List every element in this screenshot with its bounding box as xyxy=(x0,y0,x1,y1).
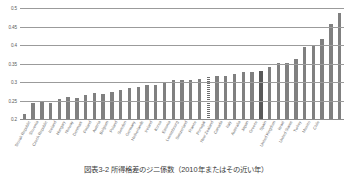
y-tick-label-0.35: 0.35 xyxy=(8,61,17,66)
bar xyxy=(242,72,245,120)
bar xyxy=(285,63,288,120)
y-tick-label-0.5: 0.5 xyxy=(11,6,17,11)
bar xyxy=(312,46,315,120)
x-tick-label: Italy xyxy=(225,120,233,129)
bar xyxy=(128,88,131,120)
bar xyxy=(58,99,61,120)
y-axis-tick-labels: 0.20.250.30.350.40.450.5 xyxy=(0,8,17,120)
gridline-0.25 xyxy=(20,101,344,102)
chart-caption: 図表3-2 所得格差のジニ係数（2010年またはその近い年） xyxy=(0,163,352,174)
bar xyxy=(49,103,52,120)
x-axis-category-labels: Slovak RepublicSloveniaCzech RepublicIce… xyxy=(20,120,344,164)
gridline-0.45 xyxy=(20,27,344,28)
y-tick-label-0.25: 0.25 xyxy=(8,98,17,103)
bar xyxy=(277,63,280,120)
bar xyxy=(110,92,113,120)
bar xyxy=(233,74,236,120)
bar xyxy=(119,90,122,120)
plot-area xyxy=(20,8,344,120)
y-tick-label-0.3: 0.3 xyxy=(11,80,17,85)
x-tick-label: Chile xyxy=(311,120,320,130)
x-tick-label: Greece xyxy=(248,120,259,134)
y-tick-label-0.2: 0.2 xyxy=(11,117,17,122)
y-tick-label-0.4: 0.4 xyxy=(11,43,17,48)
gini-coefficient-bar-chart: 0.20.250.30.350.40.450.5 Slovak Republic… xyxy=(0,0,352,175)
bar xyxy=(320,39,323,120)
bar xyxy=(93,93,96,120)
bar xyxy=(250,72,253,120)
bar xyxy=(40,102,43,120)
bar xyxy=(329,24,332,120)
bar xyxy=(101,94,104,120)
gridline-0.5 xyxy=(20,8,344,9)
bar xyxy=(31,103,34,120)
gridline-0.4 xyxy=(20,45,344,46)
gridline-0.3 xyxy=(20,82,344,83)
bar xyxy=(338,13,341,120)
bar xyxy=(154,85,157,120)
bar xyxy=(294,59,297,120)
bar xyxy=(303,47,306,120)
bar xyxy=(198,79,201,120)
bar xyxy=(259,71,262,120)
x-tick-label: Ireland xyxy=(143,120,153,133)
bar xyxy=(137,87,140,120)
gridline-0.35 xyxy=(20,64,344,65)
bar xyxy=(84,95,87,120)
y-tick-label-0.45: 0.45 xyxy=(8,24,17,29)
bar xyxy=(268,67,271,120)
bar xyxy=(207,77,210,120)
bar xyxy=(145,85,148,120)
